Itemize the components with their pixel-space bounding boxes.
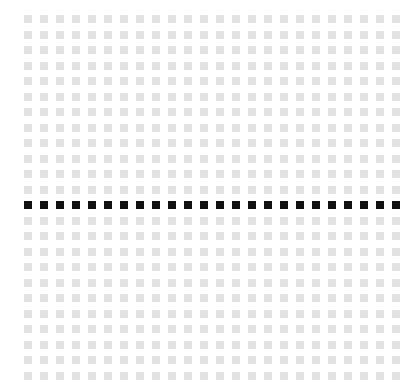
grid-square: [120, 263, 128, 271]
grid-square: [136, 232, 144, 240]
highlighted-grid-square: [232, 201, 240, 209]
grid-square: [72, 294, 80, 302]
grid-square: [152, 356, 160, 364]
grid-square: [344, 356, 352, 364]
grid-square: [376, 62, 384, 70]
grid-square: [328, 186, 336, 194]
grid-square: [88, 93, 96, 101]
grid-square: [200, 372, 208, 380]
grid-square: [24, 325, 32, 333]
grid-square: [104, 124, 112, 132]
grid-square: [312, 263, 320, 271]
grid-square: [72, 325, 80, 333]
grid-square: [56, 155, 64, 163]
grid-square: [248, 217, 256, 225]
grid-square: [232, 310, 240, 318]
grid-square: [376, 155, 384, 163]
grid-square: [24, 372, 32, 380]
grid-square: [24, 108, 32, 116]
grid-square: [152, 93, 160, 101]
grid-square: [392, 279, 400, 287]
grid-square: [376, 232, 384, 240]
highlighted-grid-square: [104, 201, 112, 209]
grid-square: [120, 108, 128, 116]
grid-square: [88, 62, 96, 70]
grid-square: [344, 155, 352, 163]
grid-square: [360, 232, 368, 240]
grid-square: [184, 31, 192, 39]
grid-square: [344, 186, 352, 194]
grid-square: [328, 46, 336, 54]
grid-square: [264, 139, 272, 147]
grid-square: [200, 232, 208, 240]
grid-square: [376, 294, 384, 302]
grid-square: [248, 155, 256, 163]
grid-square: [296, 217, 304, 225]
grid-square: [200, 170, 208, 178]
grid-square: [296, 77, 304, 85]
grid-square: [344, 77, 352, 85]
grid-square: [40, 77, 48, 85]
grid-square: [280, 310, 288, 318]
grid-square: [104, 294, 112, 302]
grid-square: [72, 93, 80, 101]
grid-square: [248, 15, 256, 23]
grid-square: [56, 356, 64, 364]
grid-square: [72, 372, 80, 380]
grid-square: [152, 279, 160, 287]
grid-square: [312, 310, 320, 318]
grid-square: [136, 325, 144, 333]
grid-square: [168, 93, 176, 101]
grid-square: [344, 124, 352, 132]
grid-square: [280, 93, 288, 101]
grid-square: [392, 248, 400, 256]
grid-square: [40, 31, 48, 39]
grid-square: [392, 77, 400, 85]
grid-square: [120, 15, 128, 23]
grid-square: [328, 62, 336, 70]
grid-square: [232, 46, 240, 54]
grid-square: [280, 232, 288, 240]
grid-square: [168, 294, 176, 302]
grid-square: [344, 248, 352, 256]
grid-square: [56, 310, 64, 318]
grid-square: [136, 15, 144, 23]
grid-square: [72, 31, 80, 39]
grid-square: [104, 248, 112, 256]
grid-square: [88, 263, 96, 271]
grid-square: [104, 310, 112, 318]
grid-square: [392, 325, 400, 333]
grid-square: [24, 232, 32, 240]
grid-square: [280, 263, 288, 271]
grid-square: [376, 31, 384, 39]
grid-square: [312, 341, 320, 349]
grid-square: [152, 294, 160, 302]
grid-square: [328, 325, 336, 333]
grid-square: [376, 46, 384, 54]
grid-square: [216, 31, 224, 39]
grid-square: [360, 217, 368, 225]
grid-square: [104, 93, 112, 101]
grid-square: [152, 155, 160, 163]
grid-square: [360, 325, 368, 333]
grid-square: [328, 124, 336, 132]
grid-square: [24, 15, 32, 23]
grid-square: [104, 217, 112, 225]
grid-square: [120, 248, 128, 256]
grid-square: [360, 46, 368, 54]
grid-square: [184, 372, 192, 380]
grid-square: [296, 310, 304, 318]
grid-square: [232, 356, 240, 364]
grid-square: [168, 15, 176, 23]
highlighted-grid-square: [280, 201, 288, 209]
grid-square: [168, 186, 176, 194]
grid-square: [312, 248, 320, 256]
grid-square: [136, 139, 144, 147]
grid-square: [360, 124, 368, 132]
grid-square: [184, 325, 192, 333]
grid-square: [344, 263, 352, 271]
grid-square: [264, 46, 272, 54]
grid-square: [120, 139, 128, 147]
grid-square: [104, 62, 112, 70]
grid-square: [232, 93, 240, 101]
